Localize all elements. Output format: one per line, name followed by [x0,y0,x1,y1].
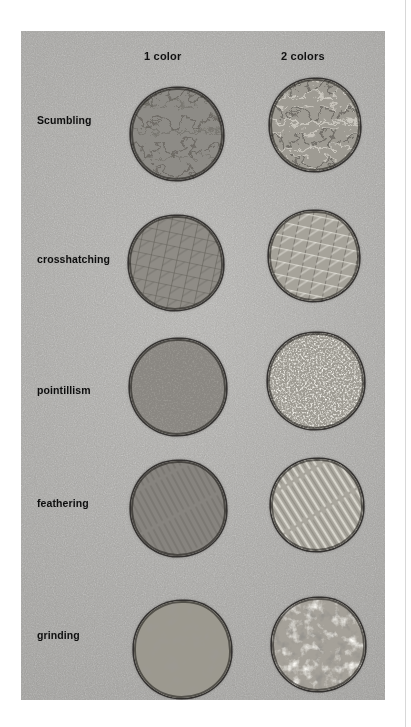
row-label-scumbling: Scumbling [37,114,92,126]
sample-grinding-one-color [134,601,231,698]
texture-feathering [131,461,226,556]
column-header-two-colors: 2 colors [281,50,325,62]
column-header-one-color: 1 color [144,50,181,62]
page-vertical-rule [405,0,406,727]
sample-feathering-one-color [131,461,226,556]
row-label-grinding: grinding [37,629,80,641]
texture-crosshatching [129,216,223,310]
sample-crosshatching-one-color [129,216,223,310]
sample-pointillism-two-colors [268,333,364,429]
row-label-feathering: feathering [37,497,89,509]
sample-crosshatching-two-colors [269,211,359,301]
texture-grinding [134,601,231,698]
texture-pointillism [268,333,364,429]
sample-grinding-two-colors [272,598,365,691]
sample-pointillism-one-color [130,339,226,435]
texture-scumbling [270,79,360,171]
sample-scumbling-two-colors [270,79,360,171]
technique-sample-photograph: 1 color 2 colors Scumbling crosshatching… [21,31,385,700]
row-label-pointillism: pointillism [37,384,91,396]
texture-pointillism [130,339,226,435]
sample-scumbling-one-color [131,88,223,180]
texture-crosshatching [269,211,359,301]
sample-feathering-two-colors [271,459,363,551]
texture-grinding [272,598,365,691]
texture-scumbling [131,88,223,180]
row-label-crosshatching: crosshatching [37,253,110,265]
texture-feathering [271,459,363,551]
